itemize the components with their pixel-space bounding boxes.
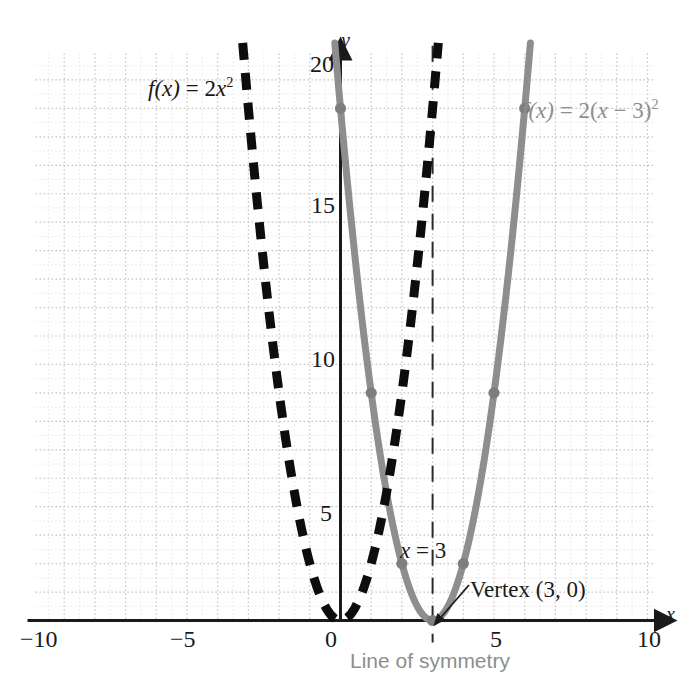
y-tick-label-15: 15 [311, 193, 335, 217]
graph-figure: y x −10 −5 0 5 10 20 15 10 5 f(x) = 2x2 … [0, 0, 690, 694]
y-tick-label-5: 5 [320, 501, 332, 525]
x-tick-label-neg5: −5 [170, 627, 196, 651]
vertex-label: Vertex (3, 0) [470, 578, 586, 601]
x-equals-3-rest: = 3 [410, 538, 446, 563]
line-of-symmetry-label: Line of symmetry [350, 650, 510, 671]
function-label-shifted-exp: 2 [651, 96, 658, 112]
x-tick-label-0: 0 [325, 627, 337, 651]
function-label-base-exp: 2 [226, 74, 233, 90]
function-label-shifted: f(x) = 2(x − 3)2 [522, 99, 659, 122]
x-tick-label-10: 10 [637, 627, 661, 651]
y-axis-letter: y [341, 30, 350, 50]
function-label-base-eq: = [180, 76, 204, 101]
function-label-base: f(x) = 2x2 [148, 77, 233, 100]
x-axis-letter: x [666, 604, 675, 624]
function-label-base-fx: f(x) [148, 76, 180, 101]
x-tick-label-5: 5 [490, 627, 502, 651]
x-equals-3-var: x [400, 538, 410, 563]
function-label-shifted-eq: = [554, 98, 578, 123]
function-label-base-coef: 2x [204, 76, 226, 101]
y-tick-label-20: 20 [310, 52, 334, 76]
x-tick-label-neg10: −10 [20, 627, 58, 651]
function-label-shifted-fx: f(x) [522, 98, 554, 123]
function-label-shifted-body: 2(x − 3) [578, 98, 651, 123]
x-equals-3-label: x = 3 [400, 539, 446, 562]
y-tick-label-10: 10 [311, 347, 335, 371]
